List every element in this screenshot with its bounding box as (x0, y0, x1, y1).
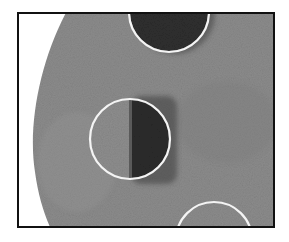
image-frame (17, 12, 275, 228)
specimen-image (17, 12, 275, 228)
